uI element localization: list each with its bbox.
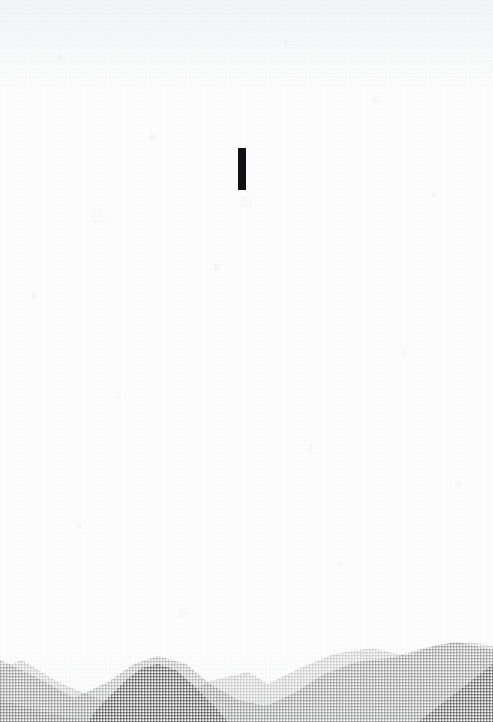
mountain-layer-right-wedge bbox=[0, 622, 493, 722]
mountain-range-illustration bbox=[0, 622, 493, 722]
vertical-bar-glyph bbox=[238, 148, 246, 190]
mark-layer bbox=[0, 0, 493, 722]
poster-canvas bbox=[0, 0, 493, 722]
mountain-svg bbox=[0, 622, 493, 722]
